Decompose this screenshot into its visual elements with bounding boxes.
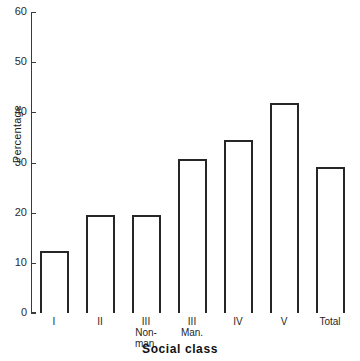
bar-series (31, 12, 353, 313)
bar (224, 140, 253, 313)
y-tick: 0 (31, 313, 36, 314)
bar (132, 215, 161, 313)
bar (270, 103, 299, 313)
y-tick-label: 60 (15, 5, 27, 18)
x-tick-label-line: III (188, 316, 196, 327)
x-tick-label-line: Total (319, 316, 340, 327)
plot-area: 0102030405060 (31, 12, 353, 313)
x-tick-label: Total (302, 316, 358, 327)
y-tick-label: 30 (15, 156, 27, 169)
y-axis-title: Percentage (11, 79, 23, 189)
y-tick-label: 20 (15, 206, 27, 219)
y-tick-label: 10 (15, 256, 27, 269)
y-tick-label: 50 (15, 55, 27, 68)
bar (40, 251, 69, 313)
x-tick-label-line: V (281, 316, 288, 327)
x-tick-label-line: I (53, 316, 56, 327)
bar (86, 215, 115, 313)
bar-chart: Percentage 0102030405060 IIIIIINon-man.I… (0, 0, 360, 361)
bar (178, 159, 207, 313)
x-tick-label-line: III (142, 316, 150, 327)
x-tick-label-line: II (97, 316, 103, 327)
bar (316, 167, 345, 313)
x-tick-label-line: Man. (164, 327, 220, 338)
x-axis-title: Social class (0, 342, 360, 356)
y-tick-mark (31, 313, 36, 314)
x-tick-label-line: IV (233, 316, 242, 327)
y-tick-label: 40 (15, 105, 27, 118)
